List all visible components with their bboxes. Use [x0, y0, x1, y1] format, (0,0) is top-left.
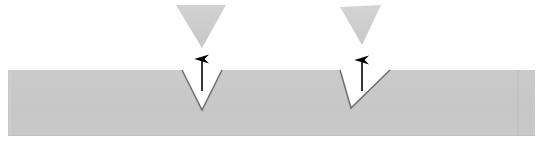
workpiece-slab-group	[8, 70, 535, 136]
workpiece-slab	[8, 70, 535, 136]
vnotch-diagram-canvas	[0, 0, 543, 151]
diagram-root	[0, 0, 543, 151]
